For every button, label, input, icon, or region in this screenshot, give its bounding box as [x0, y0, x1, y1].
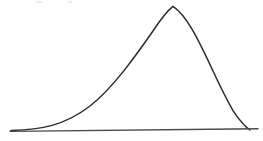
bell-curve-path [11, 6, 250, 130]
baseline-axis-line [10, 129, 258, 132]
chart-canvas [0, 0, 263, 141]
bell-curve-figure [0, 0, 263, 141]
